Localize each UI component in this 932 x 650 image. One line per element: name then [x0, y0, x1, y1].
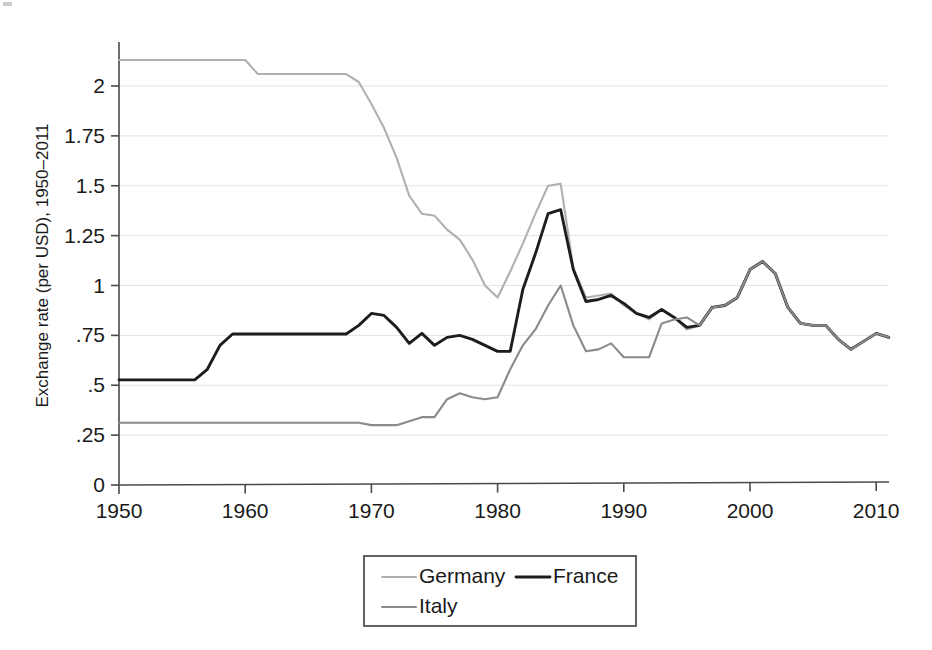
- y-tick-label: .5: [87, 373, 105, 396]
- x-tick-labels: 1950196019701980199020002010: [96, 499, 900, 522]
- series-line-germany: [119, 60, 889, 349]
- axis-lines: [119, 42, 889, 485]
- chart-canvas: 0.25.5.7511.251.51.752 19501960197019801…: [0, 0, 932, 650]
- exchange-rate-line-chart: 0.25.5.7511.251.51.752 19501960197019801…: [0, 0, 932, 650]
- x-tick-label: 1990: [600, 499, 647, 522]
- y-tick-label: 1.75: [64, 124, 105, 147]
- x-tick-label: 1970: [348, 499, 395, 522]
- y-tick-label: .75: [76, 323, 105, 346]
- x-tick-label: 2010: [853, 499, 900, 522]
- tick-marks: [111, 86, 876, 494]
- x-tick-label: 1980: [474, 499, 521, 522]
- legend-label-germany: Germany: [419, 564, 506, 587]
- x-axis-spine: [119, 482, 889, 485]
- y-tick-label: 1: [93, 274, 105, 297]
- x-tick-label: 2000: [727, 499, 774, 522]
- y-tick-label: 1.5: [76, 174, 105, 197]
- legend-label-france: France: [553, 564, 618, 587]
- y-tick-label: 2: [93, 74, 105, 97]
- y-tick-label: 1.25: [64, 224, 105, 247]
- y-tick-label: 0: [93, 473, 105, 496]
- y-tick-label: .25: [76, 423, 105, 446]
- data-series: [119, 60, 889, 425]
- chart-legend: GermanyFranceItaly: [364, 556, 636, 626]
- legend-label-italy: Italy: [419, 594, 458, 617]
- y-axis-label: Exchange rate (per USD), 1950–2011: [33, 123, 52, 407]
- x-tick-label: 1960: [222, 499, 269, 522]
- x-tick-label: 1950: [96, 499, 143, 522]
- y-axis-title: Exchange rate (per USD), 1950–2011: [33, 123, 52, 407]
- y-tick-labels: 0.25.5.7511.251.51.752: [64, 74, 105, 496]
